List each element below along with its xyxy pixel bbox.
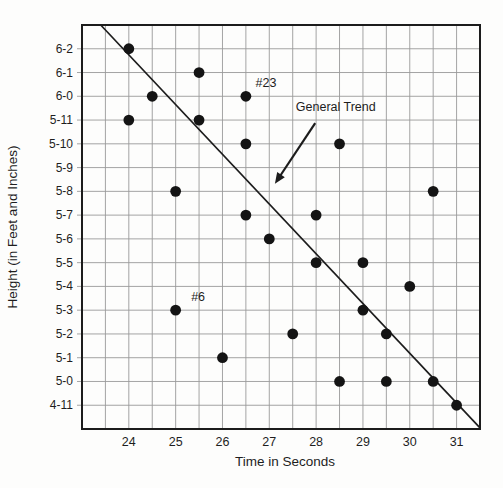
data-point — [334, 138, 345, 149]
y-tick-label: 5-8 — [56, 184, 74, 198]
annotation-label-6: #6 — [191, 290, 205, 304]
x-tick-label: 30 — [403, 435, 417, 449]
y-tick-label: 6-2 — [56, 42, 74, 56]
chart-layer: #23#6General Trend6-26-16-05-115-105-95-… — [49, 25, 480, 449]
plot-canvas: #23#6General Trend6-26-16-05-115-105-95-… — [0, 0, 503, 488]
x-tick-label: 26 — [216, 435, 230, 449]
y-tick-label: 5-6 — [56, 232, 74, 246]
data-point — [147, 91, 158, 102]
y-tick-label: 4-11 — [50, 398, 73, 412]
y-tick-label: 6-0 — [56, 89, 74, 103]
data-point-6 — [170, 305, 181, 316]
data-point — [217, 352, 228, 363]
data-point — [358, 305, 369, 316]
annotation-arrow-shaft — [280, 123, 315, 176]
y-tick-label: 5-0 — [56, 374, 74, 388]
annotation-label-general-trend: General Trend — [296, 100, 376, 114]
data-point — [264, 233, 275, 244]
data-point-23 — [240, 91, 251, 102]
x-tick-label: 25 — [169, 435, 183, 449]
data-point — [451, 400, 462, 411]
y-tick-label: 5-2 — [56, 327, 74, 341]
x-tick-label: 31 — [450, 435, 464, 449]
x-tick-label: 24 — [122, 435, 136, 449]
y-tick-label: 5-4 — [56, 279, 74, 293]
y-tick-label: 5-7 — [56, 208, 74, 222]
data-point — [287, 329, 298, 340]
x-tick-label: 28 — [309, 435, 323, 449]
x-tick-label: 29 — [356, 435, 370, 449]
annotation-arrowhead — [275, 172, 285, 184]
trend-line — [101, 25, 480, 428]
annotation-label-23: #23 — [256, 76, 277, 90]
plot-border — [82, 25, 480, 429]
data-point — [334, 376, 345, 387]
x-tick-label: 27 — [262, 435, 276, 449]
data-point — [194, 67, 205, 78]
x-axis-title: Time in Seconds — [235, 454, 335, 469]
y-tick-label: 6-1 — [56, 66, 74, 80]
y-tick-label: 5-11 — [50, 113, 73, 127]
data-point — [170, 186, 181, 197]
data-point — [240, 138, 251, 149]
scatter-plot-figure: #23#6General Trend6-26-16-05-115-105-95-… — [0, 0, 503, 488]
data-point — [311, 210, 322, 221]
y-tick-label: 5-10 — [49, 137, 73, 151]
y-tick-label: 5-9 — [56, 161, 74, 175]
data-point — [428, 376, 439, 387]
data-point — [428, 186, 439, 197]
data-point — [381, 376, 392, 387]
data-point — [381, 329, 392, 340]
y-tick-label: 5-5 — [56, 256, 74, 270]
y-axis-title: Height (in Feet and Inches) — [5, 146, 20, 309]
data-point — [404, 281, 415, 292]
data-point — [123, 115, 134, 126]
data-point — [311, 257, 322, 268]
y-tick-label: 5-1 — [56, 351, 74, 365]
y-tick-label: 5-3 — [56, 303, 74, 317]
data-point — [194, 115, 205, 126]
data-point — [240, 210, 251, 221]
data-point — [358, 257, 369, 268]
data-point — [123, 43, 134, 54]
